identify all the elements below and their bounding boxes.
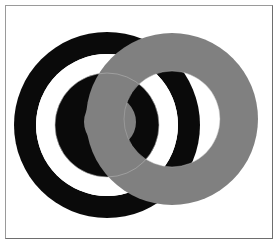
ring-figure-canvas	[0, 0, 280, 248]
figure-root	[0, 0, 280, 248]
gray-overlay-annulus	[0, 0, 280, 248]
